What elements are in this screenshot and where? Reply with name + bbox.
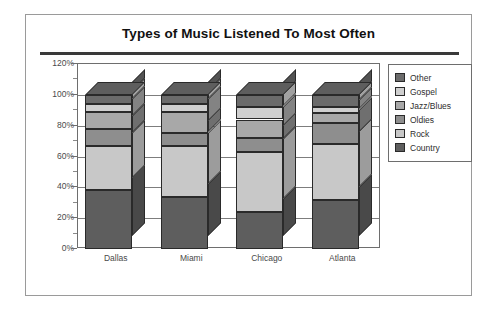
y-tick-minor bbox=[73, 171, 77, 172]
bar-segment[interactable] bbox=[312, 95, 359, 107]
bar-segment[interactable] bbox=[85, 95, 132, 104]
y-tick-minor bbox=[73, 140, 77, 141]
bar-segment[interactable] bbox=[312, 144, 359, 200]
legend-item[interactable]: Oldies bbox=[395, 113, 466, 126]
x-axis-label: Atlanta bbox=[305, 253, 381, 263]
y-tick-minor bbox=[73, 109, 77, 110]
y-tick-minor bbox=[73, 78, 77, 79]
bar-segment[interactable] bbox=[236, 212, 283, 249]
y-tick-minor bbox=[73, 233, 77, 234]
bar-segment[interactable] bbox=[236, 152, 283, 212]
plot-wrapper: 0%20%40%60%80%100%120% DallasMiamiChicag… bbox=[40, 63, 459, 285]
bar-segment[interactable] bbox=[312, 113, 359, 122]
legend-swatch-icon bbox=[395, 143, 405, 152]
chart-title: Types of Music Listened To Most Often bbox=[26, 26, 471, 41]
bar-segment[interactable] bbox=[161, 112, 208, 134]
bar-group[interactable] bbox=[312, 64, 359, 247]
legend-item[interactable]: Jazz/Blues bbox=[395, 99, 466, 112]
y-axis-labels: 0%20%40%60%80%100%120% bbox=[40, 63, 74, 285]
bar-segment[interactable] bbox=[236, 95, 283, 107]
legend-item[interactable]: Other bbox=[395, 71, 466, 84]
title-divider bbox=[40, 52, 459, 55]
bar-segment[interactable] bbox=[85, 129, 132, 146]
legend-label: Jazz/Blues bbox=[410, 101, 451, 111]
bar-segment[interactable] bbox=[161, 197, 208, 249]
y-tick-major bbox=[71, 248, 77, 249]
chart-card: Types of Music Listened To Most Often 0%… bbox=[25, 14, 472, 296]
bar-segment[interactable] bbox=[85, 104, 132, 112]
legend-label: Country bbox=[410, 143, 440, 153]
y-tick-major bbox=[71, 217, 77, 218]
legend-label: Other bbox=[410, 73, 431, 83]
bar-group[interactable] bbox=[85, 64, 132, 247]
legend-swatch-icon bbox=[395, 87, 405, 96]
bar-segment[interactable] bbox=[161, 133, 208, 145]
x-axis-label: Chicago bbox=[229, 253, 305, 263]
bar-segment[interactable] bbox=[312, 123, 359, 145]
legend-item[interactable]: Rock bbox=[395, 127, 466, 140]
legend-swatch-icon bbox=[395, 73, 405, 82]
bar-segment[interactable] bbox=[236, 107, 283, 119]
bar-segment[interactable] bbox=[85, 146, 132, 191]
legend-swatch-icon bbox=[395, 129, 405, 138]
legend-label: Gospel bbox=[410, 87, 437, 97]
y-tick-major bbox=[71, 94, 77, 95]
legend-label: Rock bbox=[410, 129, 429, 139]
plot-area bbox=[78, 63, 380, 248]
x-axis-labels: DallasMiamiChicagoAtlanta bbox=[78, 253, 380, 271]
y-tick-major bbox=[71, 125, 77, 126]
bar-segment[interactable] bbox=[85, 190, 132, 249]
y-tick-major bbox=[71, 156, 77, 157]
legend-label: Oldies bbox=[410, 115, 434, 125]
bar-segment[interactable] bbox=[161, 95, 208, 104]
bar-segment[interactable] bbox=[161, 104, 208, 112]
y-tick-minor bbox=[73, 202, 77, 203]
legend-item[interactable]: Gospel bbox=[395, 85, 466, 98]
x-axis-label: Dallas bbox=[78, 253, 154, 263]
bar-segment[interactable] bbox=[236, 120, 283, 139]
x-axis-label: Miami bbox=[154, 253, 230, 263]
bar-segment[interactable] bbox=[85, 112, 132, 129]
bar-group[interactable] bbox=[161, 64, 208, 247]
bar-segment[interactable] bbox=[236, 138, 283, 152]
bar-segment[interactable] bbox=[312, 200, 359, 249]
y-tick-major bbox=[71, 63, 77, 64]
chart-legend: OtherGospelJazz/BluesOldiesRockCountry bbox=[388, 64, 472, 162]
bar-group[interactable] bbox=[236, 64, 283, 247]
bar-segment[interactable] bbox=[161, 146, 208, 197]
y-tick-major bbox=[71, 186, 77, 187]
bar-segment[interactable] bbox=[312, 107, 359, 113]
legend-swatch-icon bbox=[395, 115, 405, 124]
legend-item[interactable]: Country bbox=[395, 141, 466, 154]
legend-swatch-icon bbox=[395, 101, 405, 110]
